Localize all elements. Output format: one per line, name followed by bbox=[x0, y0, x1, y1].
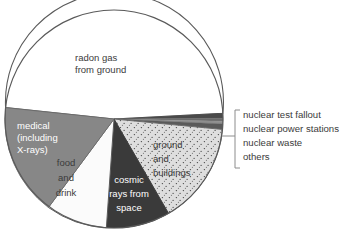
label-cosmic-line2: rays from bbox=[109, 188, 149, 199]
label-cosmic-line1: cosmic bbox=[114, 174, 144, 185]
label-medical-line2: (including bbox=[17, 132, 58, 143]
label-ground-line3: buildings bbox=[153, 167, 191, 178]
radiation-sources-pie-chart: radon gas from ground medical (including… bbox=[0, 0, 349, 232]
legend-item-nuclear-power-stations[interactable]: nuclear power stations bbox=[243, 123, 339, 134]
label-food-line1: food bbox=[57, 157, 76, 168]
legend-item-others[interactable]: others bbox=[243, 151, 270, 162]
legend: nuclear test fallout nuclear power stati… bbox=[243, 109, 339, 162]
label-food-line2: and bbox=[58, 172, 74, 183]
label-food-line3: drink bbox=[56, 187, 77, 198]
label-medical-line3: X-rays) bbox=[17, 144, 48, 155]
legend-bracket bbox=[222, 110, 240, 168]
label-radon-gas-line1: radon gas bbox=[75, 52, 118, 63]
label-ground-line2: and bbox=[153, 153, 169, 164]
label-ground-line1: ground bbox=[153, 139, 183, 150]
chart-canvas: radon gas from ground medical (including… bbox=[0, 0, 349, 232]
legend-item-nuclear-waste[interactable]: nuclear waste bbox=[243, 137, 302, 148]
legend-item-nuclear-test-fallout[interactable]: nuclear test fallout bbox=[243, 109, 321, 120]
label-medical-line1: medical bbox=[17, 120, 50, 131]
label-cosmic-line3: space bbox=[116, 202, 141, 213]
label-radon-gas-line2: from ground bbox=[75, 64, 126, 75]
